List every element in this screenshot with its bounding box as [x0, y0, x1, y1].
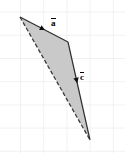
vector-c-letter: c [80, 72, 84, 82]
vector-label-c: c [80, 73, 84, 82]
vector-c-overbar [80, 72, 84, 73]
vector-a-letter: a [51, 18, 56, 28]
vector-a-overbar [51, 18, 56, 19]
vector-diagram-figure: a c [0, 0, 125, 153]
vector-label-a: a [51, 19, 56, 28]
figure-canvas [0, 0, 125, 153]
